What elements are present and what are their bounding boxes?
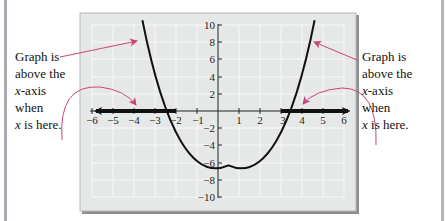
annotation-text: -axis [368, 83, 393, 98]
svg-text:2: 2 [210, 88, 216, 100]
annotation-line: x-axis [362, 82, 412, 99]
svg-text:−2: −2 [203, 122, 215, 134]
svg-text:6: 6 [210, 53, 216, 65]
svg-text:5: 5 [320, 114, 326, 126]
svg-text:4: 4 [299, 114, 305, 126]
annotation-line: above the [15, 65, 65, 82]
svg-text:−3: −3 [149, 114, 161, 126]
annotation-line: Graph is [15, 48, 65, 65]
annotation-text: is here. [21, 117, 62, 132]
annotation-line: when [15, 99, 65, 116]
annotation-line: x is here. [15, 116, 65, 133]
annotation-line: x-axis [15, 82, 65, 99]
annotation-left: Graph is above the x-axis when x is here… [15, 48, 65, 133]
svg-text:2: 2 [257, 114, 263, 126]
svg-text:−6: −6 [86, 114, 98, 126]
annotation-line: Graph is [362, 48, 412, 65]
svg-text:10: 10 [204, 19, 216, 31]
svg-text:−4: −4 [128, 114, 140, 126]
annotation-text: -axis [21, 83, 46, 98]
annotation-line: when [362, 99, 412, 116]
svg-text:6: 6 [341, 114, 347, 126]
svg-text:−4: −4 [203, 139, 215, 151]
annotation-right: Graph is above the x-axis when x is here… [362, 48, 412, 133]
annotation-line: above the [362, 65, 412, 82]
svg-text:1: 1 [236, 114, 242, 126]
svg-text:−1: −1 [192, 114, 204, 126]
annotation-text: is here. [368, 117, 409, 132]
svg-text:−8: −8 [203, 174, 215, 186]
svg-text:−5: −5 [107, 114, 119, 126]
svg-text:4: 4 [210, 71, 216, 83]
annotation-line: x is here. [362, 116, 412, 133]
svg-text:−10: −10 [198, 191, 216, 203]
svg-text:8: 8 [210, 36, 216, 48]
